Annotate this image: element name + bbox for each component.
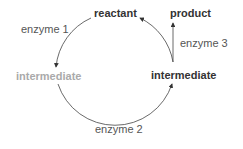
enzyme-1-label: enzyme 1 xyxy=(21,24,69,35)
product-label: product xyxy=(170,8,211,19)
intermediate-right-label: intermediate xyxy=(151,70,216,81)
reactant-label: reactant xyxy=(94,8,137,19)
enzyme-2-label: enzyme 2 xyxy=(95,124,143,135)
intermediate-left-label: intermediate xyxy=(16,71,81,82)
enzyme-3-label: enzyme 3 xyxy=(180,38,228,49)
